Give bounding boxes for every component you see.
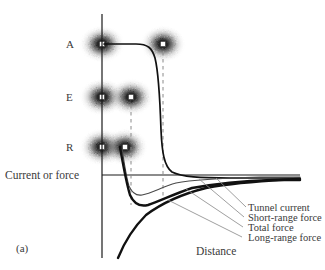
panel-label: (a) [16,242,29,255]
atom-nucleus [123,145,128,150]
atom-row-R [79,128,148,166]
y-axis-label: Current or force [5,169,79,181]
stm-afm-interaction-figure: Current or force Distance A E R Tunnel c… [0,0,325,270]
atom-nucleus [129,95,134,100]
atom-nucleus [161,42,166,47]
legend-label-long-range-force: Long-range force [248,232,322,243]
row-label-A: A [66,38,74,50]
row-label-R: R [66,141,74,153]
row-label-E: E [66,91,73,103]
atom-row-E [79,78,154,116]
x-axis-label: Distance [196,245,236,257]
